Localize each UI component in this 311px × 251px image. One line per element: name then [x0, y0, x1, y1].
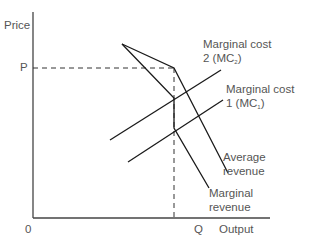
y-axis-label: Price [4, 18, 30, 32]
average-revenue-label: Average revenue [223, 150, 266, 178]
ar-label-line1: Average [223, 150, 266, 164]
x-axis-label: Output [219, 222, 254, 236]
mr-label-line1: Marginal [209, 186, 253, 200]
mc1-label-line1: Marginal cost [226, 82, 294, 96]
price-marker: P [20, 60, 28, 74]
mc2-label-prefix: 2 (MC [203, 52, 234, 64]
mc2-label: Marginal cost 2 (MC2) [203, 37, 271, 69]
mr-label-line2: revenue [209, 200, 253, 214]
marginal-cost-1-curve [128, 100, 223, 162]
ar-label-line2: revenue [223, 164, 266, 178]
mc1-label: Marginal cost 1 (MC1) [226, 82, 294, 114]
quantity-marker: Q [194, 222, 203, 236]
marginal-revenue-label: Marginal revenue [209, 186, 253, 214]
mc1-label-suffix: ) [261, 97, 265, 109]
mc2-label-line1: Marginal cost [203, 37, 271, 51]
mc1-label-line2: 1 (MC1) [226, 96, 294, 114]
marginal-cost-2-curve [110, 70, 221, 140]
marginal-revenue-curve [122, 44, 209, 188]
mc2-label-line2: 2 (MC2) [203, 51, 271, 69]
origin-label: 0 [25, 222, 31, 236]
mc2-label-suffix: ) [238, 52, 242, 64]
mc1-label-prefix: 1 (MC [226, 97, 257, 109]
